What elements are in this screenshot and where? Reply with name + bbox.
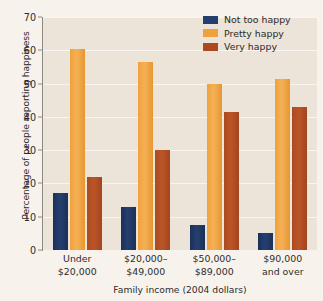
y-axis-tick-50: 50 [24, 78, 36, 89]
legend-label: Very happy [224, 41, 277, 52]
y-axis-tick-40: 40 [24, 111, 36, 122]
x-axis-tick-labels: Under$20,000$20,000–$49,000$50,000–$89,0… [43, 253, 317, 281]
bar [155, 150, 170, 250]
bar [224, 112, 239, 250]
legend-label: Pretty happy [224, 28, 284, 39]
bar [292, 107, 307, 250]
x-axis-tick-label: $90,000and over [249, 253, 318, 278]
legend-item: Pretty happy [203, 27, 315, 41]
bar [53, 193, 68, 250]
y-axis-tick-60: 60 [24, 45, 36, 56]
y-axis-tick-10: 10 [24, 211, 36, 222]
legend-swatch-icon [203, 29, 218, 37]
y-axis-tick-labels: 010203040506070 [20, 17, 42, 250]
bar-chart-figure: Percentage of people reporting happiness… [0, 0, 323, 301]
chart-legend: Not too happyPretty happyVery happy [203, 13, 315, 54]
bar [258, 233, 273, 250]
bar [70, 49, 85, 250]
bar [121, 207, 136, 250]
legend-label: Not too happy [224, 14, 291, 25]
y-axis-tick-70: 70 [24, 12, 36, 23]
legend-item: Not too happy [203, 13, 315, 27]
bar [87, 177, 102, 250]
bar-group [121, 17, 170, 250]
legend-swatch-icon [203, 16, 218, 24]
x-axis-tick-label: $50,000–$89,000 [180, 253, 249, 278]
y-axis-tick-20: 20 [24, 178, 36, 189]
x-axis-tick-label: Under$20,000 [43, 253, 112, 278]
y-axis-tick-0: 0 [30, 245, 36, 256]
legend-swatch-icon [203, 43, 218, 51]
y-axis-tick-30: 30 [24, 145, 36, 156]
bar-group [53, 17, 102, 250]
bar [275, 79, 290, 250]
bar [207, 84, 222, 250]
x-axis-tick-label: $20,000–$49,000 [112, 253, 181, 278]
bar [190, 225, 205, 250]
x-axis-title: Family income (2004 dollars) [43, 284, 317, 295]
bar [138, 62, 153, 250]
legend-item: Very happy [203, 40, 315, 54]
